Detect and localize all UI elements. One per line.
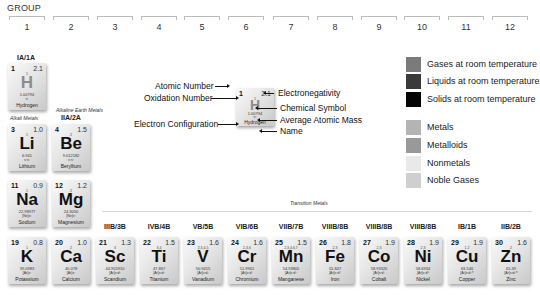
atomic-number: 1: [239, 90, 243, 97]
element-tile-magnesium[interactable]: 12 1.2 2 Mg 24.3050 [Ne]s² Magnesium: [52, 180, 90, 227]
atomic-number: 25: [275, 239, 283, 246]
column-number: 6: [227, 22, 265, 32]
key-label-atomic-number: Atomic Number: [155, 81, 214, 91]
element-name: Magnesium: [52, 219, 90, 225]
arrow-icon: [262, 131, 277, 132]
key-label-average-atomic-mass: Average Atomic Mass: [280, 115, 362, 125]
element-tile-zinc[interactable]: 30 1.6 2 Zn 65.39 [Ar]s²d¹⁰ Zinc: [492, 237, 530, 284]
electron-configuration: [Ar]s²d¹: [96, 271, 134, 275]
element-tile-vanadium[interactable]: 23 1.6 2,3,4,5 V 50.9415 [Ar]s²d³ Vanadi…: [184, 237, 222, 284]
element-tile-chromium[interactable]: 24 1.6 2,3,6 Cr 51.9961 [Ar]s¹d⁵ Chromiu…: [228, 237, 266, 284]
chemical-symbol: Mg: [52, 191, 90, 208]
element-tile-calcium[interactable]: 20 1.0 2 Ca 40.078 [Ar]s² Calcium: [52, 237, 90, 284]
atomic-number: 4: [55, 126, 59, 133]
element-tile-nickel[interactable]: 28 1.9 2,3 Ni 58.6934 [Ar]s²d⁸ Nickel: [404, 237, 442, 284]
electronegativity: 1.9: [385, 239, 395, 246]
element-tile-copper[interactable]: 29 1.9 1,2 Cu 63.546 [Ar]s¹d¹⁰ Copper: [448, 237, 486, 284]
electronegativity: 1.3: [121, 239, 131, 246]
electronegativity: 0.9: [33, 182, 43, 189]
atomic-number: 21: [99, 239, 107, 246]
element-name: Lithium: [8, 163, 46, 169]
element-name: Beryllium: [52, 163, 90, 169]
electron-configuration: s¹: [8, 97, 46, 101]
element-name: Copper: [448, 276, 486, 282]
bracket: [317, 16, 353, 20]
column-number: 2: [52, 22, 90, 32]
column-header-7: 7: [272, 16, 310, 36]
group-label-8: VIIIB/8B: [313, 223, 357, 230]
legend-label: Solids at room temperature: [427, 94, 536, 104]
chemical-symbol: Ti: [140, 248, 178, 265]
transition-metals-rule: [102, 211, 532, 212]
element-tile-manganese[interactable]: 25 1.5 2,3,4,6,7 Mn 54.93805 [Ar]s²d⁵ Ma…: [272, 237, 310, 284]
key-label-oxidation-number: Oxidation Number: [144, 93, 213, 103]
key-label-electron-configuration: Electron Configuration: [134, 119, 218, 129]
group-label-6: VIB/6B: [225, 223, 269, 230]
chemical-symbol: Be: [52, 135, 90, 152]
column-header-10: 10: [403, 16, 441, 36]
element-tile-sodium[interactable]: 11 0.9 1 Na 22.98977 [Ne]s¹ Sodium: [8, 180, 46, 227]
atomic-number: 11: [11, 182, 18, 189]
group-label-12: IIB/2B: [489, 223, 533, 230]
legend-label: Liquids at room temperature: [427, 76, 540, 86]
atomic-number: 27: [363, 239, 371, 246]
element-tile-potassium[interactable]: 19 0.8 1 K 39.0983 [Ar]s¹ Potassium: [8, 237, 46, 284]
column-header-5: 5: [183, 16, 221, 36]
electron-configuration: [Ne]s²: [52, 214, 90, 218]
element-tile-beryllium[interactable]: 4 1.5 2 Be 9.012182 s²s² Beryllium: [52, 124, 90, 171]
arrow-icon: [215, 86, 227, 87]
atomic-number: 28: [407, 239, 415, 246]
element-tile-scandium[interactable]: 21 1.3 3 Sc 44.955910 [Ar]s²d¹ Scandium: [96, 237, 134, 284]
element-tile-iron[interactable]: 26 1.8 2,3 Fe 55.847 [Ar]s²d⁶ Iron: [316, 237, 354, 284]
electronegativity: 1.5: [77, 126, 87, 133]
atomic-number: 29: [451, 239, 459, 246]
electron-configuration: [Ar]s¹d⁵: [228, 271, 266, 275]
column-header-3: 3: [96, 16, 134, 36]
bracket: [273, 16, 309, 20]
element-tile-hydrogen[interactable]: 1 2.1 1 H 1.00794 s¹ Hydrogen: [8, 63, 46, 110]
legend-swatch: [406, 57, 421, 72]
electron-configuration: [Ar]s²d⁷: [360, 271, 398, 275]
key-label-electronegativity: Electronegativity: [278, 88, 340, 98]
column-number: 9: [360, 22, 398, 32]
electron-configuration: [Ar]s²d¹⁰: [492, 271, 530, 275]
group-label-4: IVB/4B: [137, 223, 181, 230]
atomic-number: 26: [319, 239, 327, 246]
element-tile-cobalt[interactable]: 27 1.9 2,3 Co 58.93320 [Ar]s²d⁷ Cobalt: [360, 237, 398, 284]
chemical-symbol: Cu: [448, 248, 486, 265]
chemical-symbol: Cr: [228, 248, 266, 265]
chemical-symbol: Sc: [96, 248, 134, 265]
legend-swatch: [406, 74, 421, 89]
bracket: [97, 16, 133, 20]
column-number: 8: [316, 22, 354, 32]
electron-configuration: [Ne]s¹: [8, 214, 46, 218]
legend-swatch: [406, 173, 421, 188]
legend-swatch: [406, 92, 421, 107]
column-header-9: 9: [360, 16, 398, 36]
group-title: GROUP: [7, 3, 41, 13]
arrow-icon: [258, 108, 277, 109]
electron-configuration: [Ar]s²d⁵: [272, 271, 310, 275]
arrow-icon: [218, 124, 236, 125]
element-tile-titanium[interactable]: 22 1.5 3,4 Ti 47.867 [Ar]s²d² Titanium: [140, 237, 178, 284]
atomic-number: 1: [11, 65, 15, 72]
electronegativity: 1.5: [165, 239, 175, 246]
element-name: Vanadium: [184, 276, 222, 282]
chemical-symbol: Ni: [404, 248, 442, 265]
legend-swatch: [406, 120, 421, 135]
legend-label: Gases at room temperature: [427, 59, 537, 69]
column-header-8: 8: [316, 16, 354, 36]
element-name: Calcium: [52, 276, 90, 282]
element-tile-lithium[interactable]: 3 1.0 1 Li 6.941 s²s¹ Lithium: [8, 124, 46, 171]
bracket: [184, 16, 220, 20]
electronegativity: 0.8: [33, 239, 43, 246]
electron-configuration: [Ar]s²: [52, 271, 90, 275]
column-header-12: 12: [491, 16, 529, 36]
element-name: Hydrogen: [8, 102, 46, 108]
arrow-icon: [211, 98, 236, 99]
bracket: [361, 16, 397, 20]
electron-configuration: [Ar]s²d⁸: [404, 271, 442, 275]
column-number: 10: [403, 22, 441, 32]
electronegativity: 2.1: [33, 65, 43, 72]
column-number: 7: [272, 22, 310, 32]
